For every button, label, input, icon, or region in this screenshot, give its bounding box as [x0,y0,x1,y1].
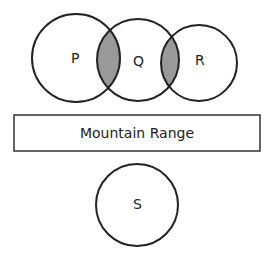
label-p: P [71,50,79,66]
label-r: R [195,52,205,68]
label-s: S [133,196,142,212]
mountain-range-label: Mountain Range [80,125,194,141]
venn-diagram: P Q R Mountain Range S [0,0,274,262]
label-q: Q [133,53,144,69]
